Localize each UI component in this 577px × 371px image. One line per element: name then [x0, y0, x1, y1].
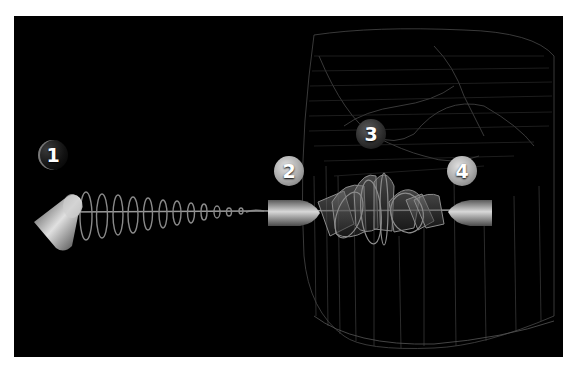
label-badge-3: 3: [356, 119, 386, 149]
label-4-text: 4: [455, 160, 468, 182]
diagram-canvas: [14, 16, 563, 357]
diagram-panel: 1 2 3 4: [14, 16, 563, 357]
label-badge-4: 4: [447, 156, 477, 186]
emitter-icon: [34, 194, 83, 251]
label-1-text: 1: [46, 144, 59, 166]
first-cylinder: [268, 200, 320, 226]
helix-wave: [80, 192, 264, 240]
label-3-text: 3: [364, 123, 377, 145]
label-badge-2: 2: [274, 156, 304, 186]
label-badge-1: 1: [38, 140, 68, 170]
label-2-text: 2: [282, 160, 295, 182]
wireframe-object: [302, 29, 554, 349]
